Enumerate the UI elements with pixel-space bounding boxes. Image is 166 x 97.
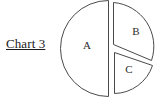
pie-slice-b-label: B	[132, 25, 139, 37]
pie-slice-c-label: C	[125, 63, 132, 75]
chart-figure: Chart 3 A B C	[0, 0, 166, 97]
pie-chart: A B C	[0, 0, 166, 97]
pie-slice-a-label: A	[83, 39, 91, 51]
